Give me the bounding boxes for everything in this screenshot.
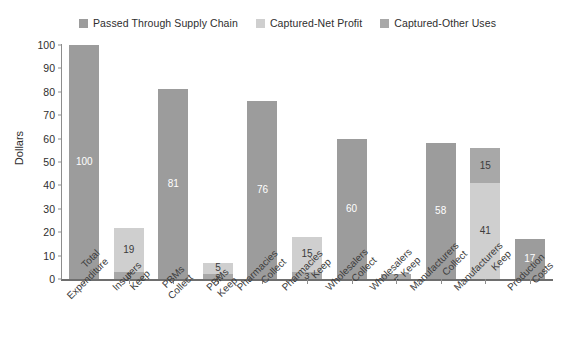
legend-swatch-icon (79, 19, 88, 28)
bar-slot: 60 (329, 45, 374, 279)
chart-legend: Passed Through Supply ChainCaptured-Net … (0, 17, 575, 29)
y-axis-tick-label: 10 (2, 250, 62, 262)
bar-stack[interactable]: 100 (69, 45, 99, 279)
legend-label: Captured-Net Profit (270, 17, 362, 29)
bar-value-label: 19 (123, 245, 134, 255)
bar-slot: 193 (107, 45, 152, 279)
bar-value-label: 15 (480, 161, 491, 171)
bar-slot: 2 (374, 45, 419, 279)
legend-swatch-icon (380, 19, 389, 28)
bar-value-label: 100 (76, 157, 93, 167)
x-axis-labels: TotalExpenditureInsurersKeepPBMsCollectP… (62, 283, 552, 353)
legend-item[interactable]: Captured-Other Uses (380, 17, 496, 29)
y-axis-tick-label: 30 (2, 203, 62, 215)
bar-chart: Passed Through Supply ChainCaptured-Net … (0, 0, 575, 355)
y-axis-tick-label: 0 (2, 273, 62, 285)
x-label-slot: ManufacturersCollect (418, 283, 463, 353)
x-label-slot: ManufacturersKeep (463, 283, 508, 353)
x-label-slot: InsurersKeep (107, 283, 152, 353)
y-axis-tick-label: 40 (2, 179, 62, 191)
x-label-slot: PBMsKeep (196, 283, 241, 353)
bar-slot: 100 (62, 45, 107, 279)
bar-group: 10019381527615360258154117 (62, 45, 552, 279)
plot-area: 0102030405060708090100 10019381527615360… (62, 45, 552, 279)
y-axis-tick-label: 90 (2, 62, 62, 74)
y-axis-tick-label: 50 (2, 156, 62, 168)
bar-value-label: 76 (257, 185, 268, 195)
y-axis-tick-label: 70 (2, 109, 62, 121)
bar-value-label: 81 (168, 179, 179, 189)
legend-item[interactable]: Passed Through Supply Chain (79, 17, 238, 29)
x-label-slot: ProductionCosts (507, 283, 552, 353)
bar-value-label: 58 (435, 206, 446, 216)
bar-segment[interactable]: 81 (158, 89, 188, 279)
bar-slot: 76 (240, 45, 285, 279)
bar-segment[interactable]: 100 (69, 45, 99, 279)
x-label-slot: TotalExpenditure (62, 283, 107, 353)
bar-slot: 17 (507, 45, 552, 279)
bar-segment[interactable]: 15 (470, 148, 500, 183)
x-label-slot: PBMsCollect (151, 283, 196, 353)
bar-value-label: 41 (480, 226, 491, 236)
legend-label: Captured-Other Uses (394, 17, 496, 29)
bar-slot: 52 (196, 45, 241, 279)
legend-item[interactable]: Captured-Net Profit (256, 17, 362, 29)
bar-stack[interactable]: 81 (158, 89, 188, 279)
bar-slot: 153 (285, 45, 330, 279)
y-axis-tick-label: 20 (2, 226, 62, 238)
y-axis-tick-label: 100 (2, 39, 62, 51)
y-axis-tick-label: 80 (2, 86, 62, 98)
x-label-slot: WholesalersKeep (374, 283, 419, 353)
y-axis-tick-label: 60 (2, 133, 62, 145)
x-label-slot: PharmaciesKeep (285, 283, 330, 353)
legend-swatch-icon (256, 19, 265, 28)
bar-slot: 81 (151, 45, 196, 279)
bar-value-label: 60 (346, 204, 357, 214)
x-label-slot: PharmaciesCollect (240, 283, 285, 353)
legend-label: Passed Through Supply Chain (93, 17, 238, 29)
x-label-slot: WholesalersCollect (329, 283, 374, 353)
